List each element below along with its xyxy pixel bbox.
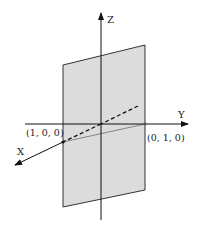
point-0-1-0 — [143, 122, 146, 125]
plane — [63, 45, 145, 207]
point-label-1-0-0: (1, 0, 0) — [26, 127, 64, 138]
x-axis-label: X — [17, 146, 25, 157]
y-axis-label: Y — [177, 109, 185, 120]
point-1-0-0 — [61, 140, 64, 143]
coordinate-diagram: Z Y X (1, 0, 0) (0, 1, 0) — [0, 0, 203, 230]
z-axis-label: Z — [107, 14, 114, 25]
point-label-0-1-0: (0, 1, 0) — [147, 132, 185, 143]
